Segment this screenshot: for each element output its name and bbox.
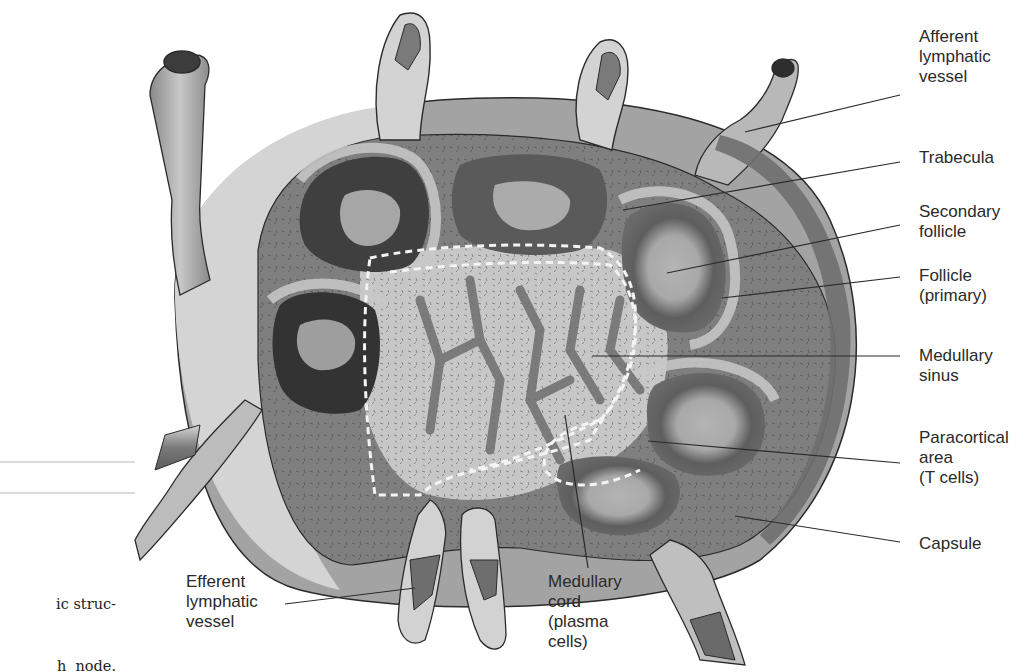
label-trabecula: Trabecula (919, 148, 994, 168)
label-medullary-cord: Medullary cord (plasma cells) (548, 572, 622, 652)
afferent-vessel-top-1 (376, 13, 430, 140)
follicle-lower-right (647, 373, 765, 476)
caption-line: h node. (0, 656, 116, 672)
label-paracortical-area: Paracortical area (T cells) (919, 428, 1009, 488)
label-secondary-follicle: Secondary follicle (919, 202, 1000, 242)
label-efferent-lymphatic-vessel: Efferent lymphatic vessel (186, 572, 258, 632)
label-follicle-primary: Follicle (primary) (919, 266, 987, 306)
lymph-node-diagram (0, 0, 1028, 672)
label-afferent-lymphatic-vessel: Afferent lymphatic vessel (919, 27, 991, 87)
label-capsule: Capsule (919, 534, 981, 554)
caption-line: ic struc- (0, 594, 116, 615)
afferent-vessel-left (150, 51, 210, 295)
figure-caption-fragment: ic struc- h node. omposed nodules, can b… (0, 553, 116, 672)
label-medullary-sinus: Medullary sinus (919, 346, 993, 386)
